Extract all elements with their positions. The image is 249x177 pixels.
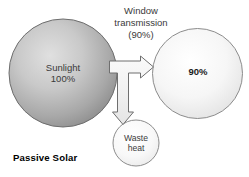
- transmitted-light-circle: [153, 29, 243, 119]
- sunlight-circle: [9, 19, 117, 127]
- passive-solar-diagram: Sunlight 100% 90% Waste heat Window tran…: [0, 0, 249, 177]
- waste-heat-circle: [113, 120, 159, 166]
- diagram-caption: Passive Solar: [13, 152, 77, 163]
- diagram-canvas: [0, 0, 249, 177]
- window-transmission-arrow: [110, 56, 154, 125]
